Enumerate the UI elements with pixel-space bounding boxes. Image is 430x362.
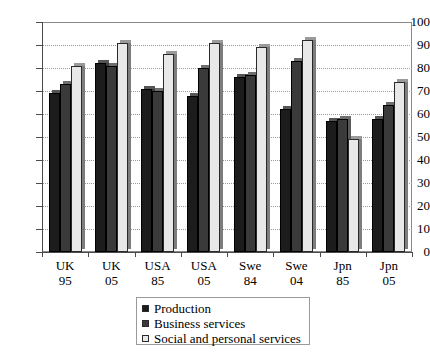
x-axis-tick-label: Swe04 bbox=[273, 258, 319, 288]
bar bbox=[152, 91, 163, 252]
bar bbox=[187, 96, 198, 252]
x-axis-tick-mark bbox=[412, 252, 413, 257]
x-label-year: 05 bbox=[366, 273, 412, 288]
bar bbox=[245, 75, 256, 252]
x-axis-tick-mark bbox=[320, 252, 321, 257]
bar bbox=[141, 89, 152, 252]
x-label-year: 85 bbox=[320, 273, 366, 288]
bar bbox=[117, 43, 128, 252]
legend-item-social-personal-services: Social and personal services bbox=[142, 331, 304, 345]
bar bbox=[256, 47, 267, 252]
bar-side-shadow bbox=[174, 51, 177, 249]
x-label-region: Swe bbox=[227, 258, 273, 273]
bar-face bbox=[60, 84, 71, 252]
legend: Production Business services Social and … bbox=[136, 297, 310, 345]
x-axis-tick-mark bbox=[42, 252, 43, 257]
bar-face bbox=[245, 75, 256, 252]
x-axis-tick-mark bbox=[181, 252, 182, 257]
legend-item-label: Business services bbox=[154, 317, 245, 330]
legend-item-production: Production bbox=[142, 301, 304, 315]
bar bbox=[337, 119, 348, 252]
bar-face bbox=[106, 66, 117, 252]
bar-face bbox=[383, 105, 394, 252]
x-label-year: 84 bbox=[227, 273, 273, 288]
x-axis-tick-label: USA85 bbox=[135, 258, 181, 288]
bar-side-shadow bbox=[313, 37, 316, 249]
bar bbox=[326, 121, 337, 252]
x-label-region: Jpn bbox=[366, 258, 412, 273]
x-axis-tick-label: UK05 bbox=[88, 258, 134, 288]
bar bbox=[106, 66, 117, 252]
bar-side-shadow bbox=[220, 40, 223, 249]
bar bbox=[302, 40, 313, 252]
x-label-region: UK bbox=[42, 258, 88, 273]
bar-face bbox=[372, 119, 383, 252]
legend-item-label: Production bbox=[154, 302, 211, 315]
bar bbox=[383, 105, 394, 252]
bar bbox=[394, 82, 405, 252]
bar-side-shadow bbox=[128, 40, 131, 249]
x-label-region: Swe bbox=[273, 258, 319, 273]
bar-side-shadow bbox=[82, 63, 85, 249]
bar-face bbox=[71, 66, 82, 252]
bar bbox=[348, 139, 359, 252]
bar bbox=[291, 61, 302, 252]
bar bbox=[49, 93, 60, 252]
x-axis-tick-label: UK95 bbox=[42, 258, 88, 288]
x-label-year: 85 bbox=[135, 273, 181, 288]
bar bbox=[372, 119, 383, 252]
bar bbox=[234, 77, 245, 252]
bar-face bbox=[187, 96, 198, 252]
x-label-year: 04 bbox=[273, 273, 319, 288]
bar-face bbox=[209, 43, 220, 252]
bar-face bbox=[234, 77, 245, 252]
x-axis-tick-label: Jpn05 bbox=[366, 258, 412, 288]
x-axis-tick-label: Jpn85 bbox=[320, 258, 366, 288]
legend-item-label: Social and personal services bbox=[154, 332, 301, 345]
x-axis-tick-mark bbox=[273, 252, 274, 257]
gridline bbox=[43, 45, 412, 46]
bar-face bbox=[280, 109, 291, 252]
bar bbox=[71, 66, 82, 252]
legend-swatch-icon bbox=[142, 335, 149, 342]
bar-face bbox=[302, 40, 313, 252]
bar-side-shadow bbox=[267, 44, 270, 249]
x-label-region: USA bbox=[181, 258, 227, 273]
x-label-region: USA bbox=[135, 258, 181, 273]
x-axis-tick-mark bbox=[135, 252, 136, 257]
bar-face bbox=[394, 82, 405, 252]
x-axis-tick-label: USA05 bbox=[181, 258, 227, 288]
x-label-region: Jpn bbox=[320, 258, 366, 273]
bar-face bbox=[348, 139, 359, 252]
bar-face bbox=[141, 89, 152, 252]
x-label-region: UK bbox=[88, 258, 134, 273]
bar-face bbox=[198, 68, 209, 252]
bar bbox=[280, 109, 291, 252]
bar-face bbox=[117, 43, 128, 252]
bar-face bbox=[291, 61, 302, 252]
x-axis-tick-mark bbox=[227, 252, 228, 257]
bar-chart: 0102030405060708090100 UK95UK05USA85USA0… bbox=[0, 0, 430, 362]
bar bbox=[60, 84, 71, 252]
bar bbox=[95, 63, 106, 252]
bar bbox=[163, 54, 174, 252]
bar-face bbox=[49, 93, 60, 252]
bar-face bbox=[152, 91, 163, 252]
bar-side-shadow bbox=[359, 136, 362, 249]
bar-face bbox=[163, 54, 174, 252]
bar-face bbox=[95, 63, 106, 252]
bar-face bbox=[326, 121, 337, 252]
x-axis-tick-label: Swe84 bbox=[227, 258, 273, 288]
x-axis-tick-mark bbox=[366, 252, 367, 257]
legend-swatch-icon bbox=[142, 320, 149, 327]
bar bbox=[198, 68, 209, 252]
bar-face bbox=[337, 119, 348, 252]
x-axis-tick-mark bbox=[88, 252, 89, 257]
bar-side-shadow bbox=[405, 79, 408, 249]
legend-swatch-icon bbox=[142, 305, 149, 312]
x-label-year: 05 bbox=[88, 273, 134, 288]
x-label-year: 05 bbox=[181, 273, 227, 288]
x-label-year: 95 bbox=[42, 273, 88, 288]
legend-item-business-services: Business services bbox=[142, 316, 304, 330]
bar-face bbox=[256, 47, 267, 252]
